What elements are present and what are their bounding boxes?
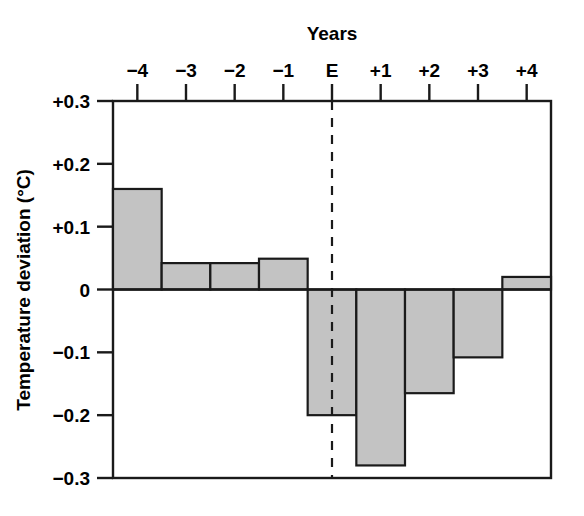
y-axis-tick-labels: +0.3+0.2+0.10−0.1−0.2−0.3 bbox=[52, 91, 90, 489]
y-tick-label: −0.1 bbox=[52, 342, 90, 363]
bar bbox=[405, 290, 454, 394]
bar bbox=[454, 290, 503, 358]
bar bbox=[259, 259, 308, 290]
bar bbox=[162, 263, 211, 289]
bar bbox=[356, 290, 405, 466]
chart-container: −4−3−2−1E+1+2+3+4 +0.3+0.2+0.10−0.1−0.2−… bbox=[0, 0, 584, 516]
x-tick-label: +3 bbox=[467, 60, 489, 81]
y-tick-label: +0.2 bbox=[52, 154, 90, 175]
y-axis-title: Temperature deviation (°C) bbox=[13, 169, 34, 411]
bar-chart: −4−3−2−1E+1+2+3+4 +0.3+0.2+0.10−0.1−0.2−… bbox=[0, 0, 584, 516]
y-tick-label: +0.3 bbox=[52, 91, 90, 112]
y-axis-ticks bbox=[97, 101, 113, 478]
bar bbox=[502, 277, 551, 290]
x-tick-label: −1 bbox=[272, 60, 294, 81]
x-tick-label: −2 bbox=[224, 60, 246, 81]
y-tick-label: −0.2 bbox=[52, 405, 90, 426]
x-axis-tick-labels: −4−3−2−1E+1+2+3+4 bbox=[126, 60, 537, 81]
bar bbox=[113, 189, 162, 290]
x-tick-label: −3 bbox=[175, 60, 197, 81]
x-tick-label: +1 bbox=[370, 60, 392, 81]
y-tick-label: 0 bbox=[79, 280, 90, 301]
x-tick-label: +2 bbox=[418, 60, 440, 81]
x-axis-title: Years bbox=[307, 23, 358, 44]
x-tick-label: +4 bbox=[516, 60, 538, 81]
x-tick-label: −4 bbox=[126, 60, 148, 81]
x-axis-ticks bbox=[137, 84, 526, 101]
x-tick-label: E bbox=[326, 60, 339, 81]
bar bbox=[210, 263, 259, 289]
y-tick-label: −0.3 bbox=[52, 468, 90, 489]
y-tick-label: +0.1 bbox=[52, 217, 90, 238]
